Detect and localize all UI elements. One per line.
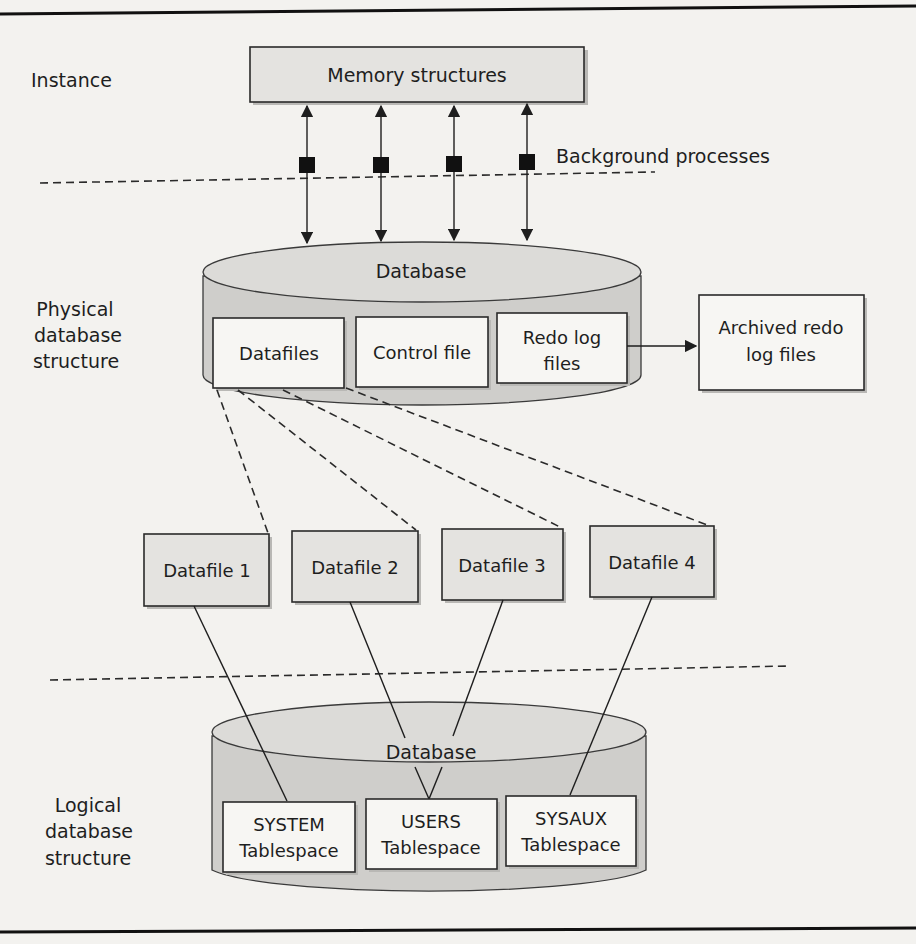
bottom-rule xyxy=(0,928,916,932)
svg-text:database: database xyxy=(34,324,122,346)
svg-text:Tablespace: Tablespace xyxy=(520,834,620,855)
physical-logical-divider xyxy=(50,666,790,680)
svg-text:SYSAUX: SYSAUX xyxy=(535,808,607,829)
section-label-instance: Instance xyxy=(31,69,112,91)
redo-log-files-box: Redo log files xyxy=(497,313,630,386)
background-process-links xyxy=(299,104,535,243)
system-tablespace-box: SYSTEM Tablespace xyxy=(223,802,358,875)
svg-text:Physical: Physical xyxy=(36,298,113,320)
svg-text:Datafile 4: Datafile 4 xyxy=(608,552,696,573)
svg-text:SYSTEM: SYSTEM xyxy=(253,814,325,835)
process-square-icon xyxy=(519,154,535,170)
logical-database-label: Database xyxy=(386,741,477,763)
users-tablespace-box: USERS Tablespace xyxy=(366,799,500,872)
datafile-1-box: Datafile 1 xyxy=(144,534,272,609)
svg-text:Tablespace: Tablespace xyxy=(380,837,480,858)
svg-text:Archived redo: Archived redo xyxy=(718,317,843,338)
svg-text:Datafile 3: Datafile 3 xyxy=(458,555,546,576)
datafile-mapping-lines xyxy=(217,388,710,533)
svg-text:Datafile 2: Datafile 2 xyxy=(311,557,399,578)
svg-text:structure: structure xyxy=(33,350,119,372)
svg-text:Tablespace: Tablespace xyxy=(238,840,338,861)
physical-database-label: Database xyxy=(376,260,467,282)
oracle-architecture-diagram: Instance Physical database structure Log… xyxy=(0,0,916,944)
svg-text:Datafiles: Datafiles xyxy=(239,343,319,364)
svg-text:Control file: Control file xyxy=(373,342,471,363)
process-square-icon xyxy=(373,157,389,173)
svg-text:Redo log: Redo log xyxy=(523,327,601,348)
datafiles-box: Datafiles xyxy=(213,318,347,391)
control-file-box: Control file xyxy=(356,317,491,390)
svg-text:Logical: Logical xyxy=(55,794,122,816)
svg-text:log files: log files xyxy=(746,344,816,365)
svg-text:structure: structure xyxy=(45,847,131,869)
datafile-4-box: Datafile 4 xyxy=(590,526,717,600)
svg-text:files: files xyxy=(544,353,581,374)
svg-text:Datafile 1: Datafile 1 xyxy=(163,560,251,581)
memory-structures-box: Memory structures xyxy=(250,47,588,105)
sysaux-tablespace-box: SYSAUX Tablespace xyxy=(506,796,639,869)
datafile-3-box: Datafile 3 xyxy=(442,529,566,603)
background-processes-label: Background processes xyxy=(556,145,770,167)
process-square-icon xyxy=(299,157,315,173)
svg-text:database: database xyxy=(45,820,133,842)
instance-divider xyxy=(40,172,655,183)
section-label-logical: Logical database structure xyxy=(45,794,133,869)
section-label-physical: Physical database structure xyxy=(33,298,122,372)
datafile-2-box: Datafile 2 xyxy=(292,531,421,605)
process-square-icon xyxy=(446,156,462,172)
svg-text:USERS: USERS xyxy=(401,811,461,832)
archived-redo-log-files-box: Archived redo log files xyxy=(699,295,867,393)
memory-structures-label: Memory structures xyxy=(327,64,506,86)
top-rule xyxy=(0,6,916,14)
